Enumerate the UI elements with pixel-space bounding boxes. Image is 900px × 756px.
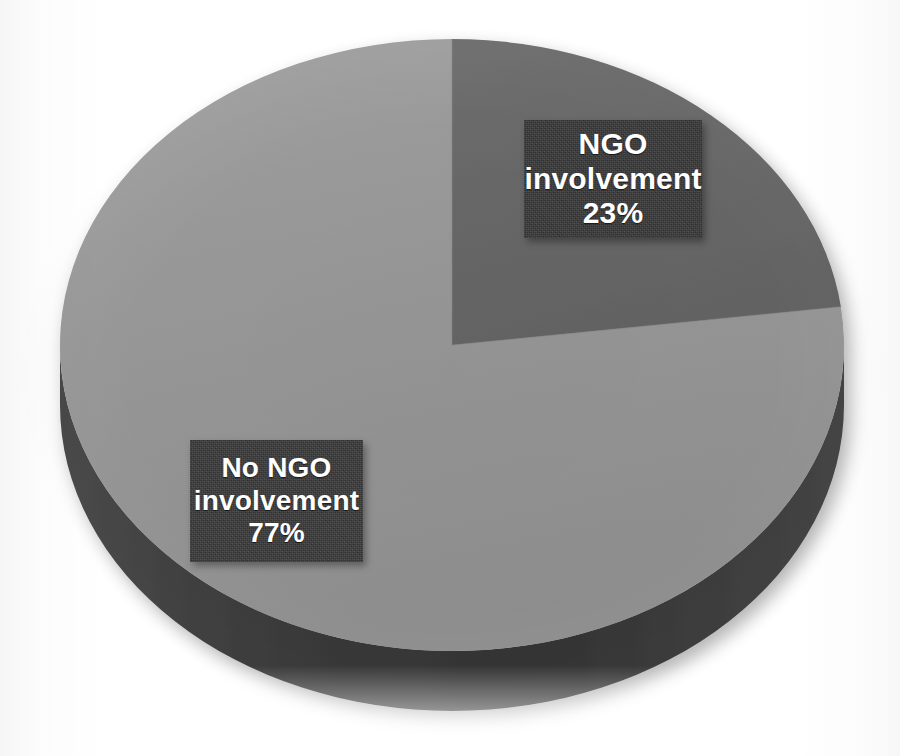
data-label-no-ngo-involvement: No NGO involvement 77%: [190, 440, 363, 562]
pie-chart-figure: NGO involvement 23% No NGO involvement 7…: [0, 0, 900, 756]
data-label-no-ngo-value: 77%: [248, 517, 305, 549]
data-label-ngo-value: 23%: [583, 196, 644, 231]
data-label-ngo-involvement: NGO involvement 23%: [524, 120, 702, 238]
data-label-no-ngo-line1: No NGO: [221, 452, 331, 484]
data-label-ngo-line2: involvement: [524, 162, 701, 197]
pie-body: [60, 39, 844, 711]
data-label-ngo-line1: NGO: [579, 127, 648, 162]
data-label-no-ngo-line2: involvement: [194, 485, 360, 517]
pie-chart-graphic: [0, 0, 900, 756]
